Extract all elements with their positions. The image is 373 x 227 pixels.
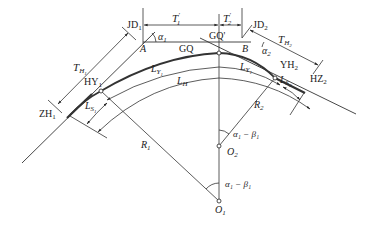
compound-curve-diagram: JD1 JD2 T′1 T′2 α1 α2 A B GQ GQ' TH1 TH2… (0, 0, 373, 227)
left-tangent-line (22, 32, 155, 163)
o1-point (217, 199, 221, 203)
label-b: B (242, 43, 248, 54)
label-ls2: LS2 (279, 74, 292, 88)
lh-dimension-arc (98, 78, 310, 132)
label-angle-lower: α₁ − β₁ (225, 179, 251, 189)
label-th1: TH1 (73, 61, 87, 76)
angle-arc-o2 (219, 130, 229, 134)
label-r1: R1 (140, 139, 151, 152)
label-yh2: YH2 (280, 59, 298, 72)
label-ly1-left: LY1 (150, 63, 163, 77)
right-tangent-line (200, 38, 356, 114)
label-ly1-right: LY1 (239, 61, 252, 75)
label-jd1: JD1 (127, 19, 142, 32)
yh2-point (273, 76, 277, 80)
angle-arc-o1 (206, 183, 219, 189)
label-a: A (139, 43, 147, 54)
label-gq-prime: GQ' (209, 30, 225, 41)
label-o1: O1 (215, 204, 226, 217)
label-hy1: HY1 (84, 76, 102, 89)
label-o2: O2 (227, 146, 238, 159)
o2-point (217, 144, 221, 148)
label-alpha2: α2 (262, 45, 271, 58)
label-angle-upper: α₁ − β₁ (233, 129, 259, 139)
hy1-point (99, 89, 103, 93)
label-ls1: LS1 (84, 100, 97, 114)
label-lh: LH (176, 75, 189, 88)
label-gq: GQ (179, 43, 194, 54)
r1-radius-line (101, 91, 219, 201)
label-r2: R2 (253, 99, 264, 112)
th1-dimension (48, 27, 136, 113)
gq-point (217, 51, 221, 55)
ly-dimension-arc (107, 67, 280, 100)
label-zh1: ZH1 (39, 108, 56, 121)
label-jd2: JD2 (253, 19, 268, 32)
label-hz2: HZ2 (310, 73, 327, 86)
zh1-extension (70, 116, 107, 138)
